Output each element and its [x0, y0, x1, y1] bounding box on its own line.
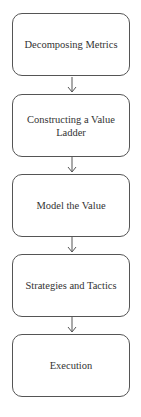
arrow-down-icon	[66, 157, 78, 174]
step-strategies-and-tactics: Strategies and Tactics	[12, 254, 130, 317]
step-constructing-value-ladder: Constructing a Value Ladder	[12, 94, 130, 157]
step-decomposing-metrics: Decomposing Metrics	[12, 13, 130, 76]
step-model-the-value: Model the Value	[12, 174, 130, 237]
step-label: Execution	[50, 359, 93, 372]
arrow-down-icon	[66, 317, 78, 334]
step-label: Strategies and Tactics	[25, 279, 116, 292]
step-label: Model the Value	[36, 199, 105, 212]
step-label: Decomposing Metrics	[24, 38, 117, 51]
arrow-down-icon	[66, 237, 78, 254]
step-label: Constructing a Value Ladder	[19, 113, 123, 139]
arrow-down-icon	[66, 77, 78, 94]
step-execution: Execution	[12, 334, 130, 397]
